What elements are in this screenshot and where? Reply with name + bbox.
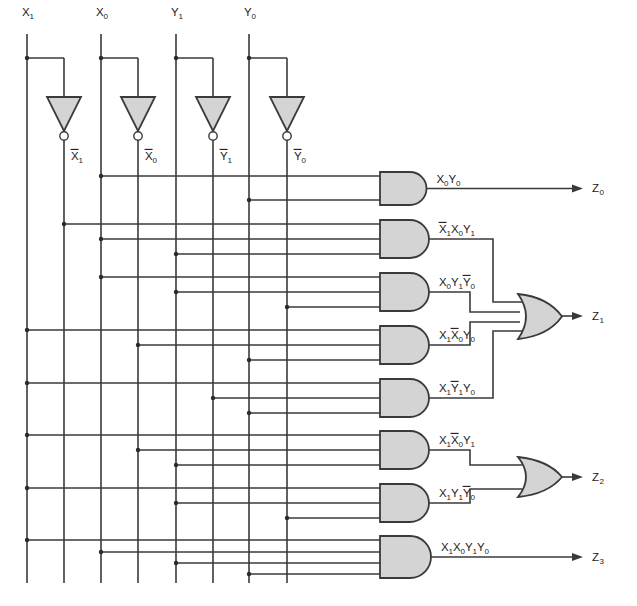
token-base: Z xyxy=(592,310,599,322)
and-input-tap-and-4-1 xyxy=(136,343,140,347)
token-subscript: 0 xyxy=(471,282,476,291)
and-input-tap-and-6-0 xyxy=(25,433,29,437)
and-input-tap-and-8-2 xyxy=(174,561,178,565)
inverter-triangle-not-Y0[interactable] xyxy=(270,97,304,131)
token-subscript: 0 xyxy=(104,12,109,21)
or-gate-or-z2[interactable] xyxy=(518,457,562,497)
token-subscript: 0 xyxy=(302,156,307,165)
inverter-triangle-not-X1[interactable] xyxy=(47,97,81,131)
token-subscript: 2 xyxy=(600,477,605,486)
token-subscript: 0 xyxy=(456,179,461,188)
and-output-label-and-3: X0Y1Y0 xyxy=(439,275,476,291)
output-label-Z2: Z2 xyxy=(592,471,605,486)
and-input-tap-and-1-0 xyxy=(99,174,103,178)
token-subscript: 0 xyxy=(471,388,476,397)
and-output-label-and-2: X1X0Y1 xyxy=(439,222,476,238)
output-label-Z3: Z3 xyxy=(592,551,605,566)
junction-dot-not-X1 xyxy=(25,56,29,60)
token-base: Z xyxy=(592,471,599,483)
token-subscript: 1 xyxy=(179,12,184,21)
input-label-X0: X0 xyxy=(96,6,109,21)
and-input-tap-and-6-1 xyxy=(136,448,140,452)
input-label-Y1: Y1 xyxy=(171,6,184,21)
input-label-Y0: Y0 xyxy=(244,6,257,21)
inverter-bubble-not-Y0 xyxy=(283,132,291,140)
inverter-bubble-not-X0 xyxy=(134,132,142,140)
junction-dot-not-Y1 xyxy=(174,56,178,60)
arrow-z0 xyxy=(572,185,583,193)
token-subscript: 0 xyxy=(485,547,490,556)
token-subscript: 0 xyxy=(471,493,476,502)
and-input-tap-and-4-0 xyxy=(25,328,29,332)
token-subscript: 0 xyxy=(471,335,476,344)
input-label-X1: X1 xyxy=(22,6,35,21)
and-output-label-and-1: X0Y0 xyxy=(437,173,462,188)
and-input-tap-and-7-0 xyxy=(25,486,29,490)
and-output-label-and-6: X1X0Y1 xyxy=(439,433,476,449)
token-subscript: 1 xyxy=(471,440,476,449)
and-input-tap-and-5-2 xyxy=(247,411,251,415)
arrow-z2 xyxy=(572,473,583,481)
and-gate-and-4[interactable] xyxy=(380,326,429,364)
output-label-Z1: Z1 xyxy=(592,310,605,325)
and-input-tap-and-6-2 xyxy=(174,463,178,467)
and-gate-and-2[interactable] xyxy=(380,220,429,258)
token-subscript: 0 xyxy=(600,188,605,197)
inverter-output-label-not-Y0: Y0 xyxy=(294,149,307,165)
or-gate-or-z1[interactable] xyxy=(518,294,562,339)
and-input-tap-and-7-2 xyxy=(285,516,289,520)
and-gate-and-8[interactable] xyxy=(380,536,431,578)
inverter-bubble-not-Y1 xyxy=(209,132,217,140)
and-input-tap-and-4-2 xyxy=(247,358,251,362)
token-subscript: 1 xyxy=(471,229,476,238)
token-subscript: 1 xyxy=(600,316,605,325)
and-gate-and-6[interactable] xyxy=(380,431,429,469)
and-input-tap-and-8-1 xyxy=(99,550,103,554)
and-input-tap-and-3-2 xyxy=(285,305,289,309)
and-output-label-and-8: X1X0Y1Y0 xyxy=(441,541,490,556)
inverter-output-label-not-Y1: Y1 xyxy=(220,149,233,165)
inverter-output-label-not-X1: X1 xyxy=(71,149,84,165)
token-subscript: 1 xyxy=(228,156,233,165)
junction-dot-not-Y0 xyxy=(247,56,251,60)
or-z2-input-wire-0 xyxy=(429,450,522,465)
circuit-svg: X1X0Y1Y0X1X0Y1Y0X0Y0X1X0Y1X0Y1Y0X1X0Y0X1… xyxy=(0,0,637,606)
and-input-tap-and-2-0 xyxy=(62,222,66,226)
and-gate-and-1[interactable] xyxy=(380,172,427,205)
and-input-tap-and-5-1 xyxy=(211,396,215,400)
and-input-tap-and-2-2 xyxy=(174,252,178,256)
token-subscript: 1 xyxy=(30,12,35,21)
token-subscript: 0 xyxy=(153,156,158,165)
and-input-tap-and-1-1 xyxy=(247,198,251,202)
inverter-triangle-not-Y1[interactable] xyxy=(196,97,230,131)
inverter-output-label-not-X0: X0 xyxy=(145,149,158,165)
and-input-tap-and-7-1 xyxy=(174,501,178,505)
token-subscript: 3 xyxy=(600,557,605,566)
circuit-diagram-canvas: X1X0Y1Y0X1X0Y1Y0X0Y0X1X0Y1X0Y1Y0X1X0Y0X1… xyxy=(0,0,637,606)
and-output-label-and-5: X1Y1Y0 xyxy=(439,381,476,397)
inverter-bubble-not-X1 xyxy=(60,132,68,140)
arrow-z1 xyxy=(572,312,583,320)
and-input-tap-and-8-3 xyxy=(247,572,251,576)
token-subscript: 1 xyxy=(79,156,84,165)
and-input-tap-and-8-0 xyxy=(25,538,29,542)
and-gate-and-7[interactable] xyxy=(380,484,429,522)
junction-dot-not-X0 xyxy=(99,56,103,60)
token-base: Z xyxy=(592,551,599,563)
and-gate-and-3[interactable] xyxy=(380,273,429,311)
token-subscript: 0 xyxy=(252,12,257,21)
and-input-tap-and-5-0 xyxy=(25,381,29,385)
and-input-tap-and-3-0 xyxy=(99,275,103,279)
and-gate-and-5[interactable] xyxy=(380,379,429,417)
token-base: Z xyxy=(592,182,599,194)
and-input-tap-and-3-1 xyxy=(174,290,178,294)
inverter-triangle-not-X0[interactable] xyxy=(121,97,155,131)
and-input-tap-and-2-1 xyxy=(99,237,103,241)
output-label-Z0: Z0 xyxy=(592,182,605,197)
arrow-z3 xyxy=(572,553,583,561)
